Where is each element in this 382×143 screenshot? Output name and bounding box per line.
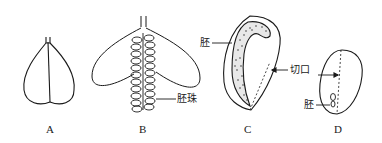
figure-d-drawing <box>316 50 362 114</box>
label-embryo-d: 胚 <box>304 100 314 110</box>
figure-c-drawing <box>212 16 288 110</box>
label-incision-c: 切口 <box>290 65 310 75</box>
figure-a-drawing <box>24 37 74 104</box>
diagram-canvas <box>0 0 382 143</box>
figure-label-c: C <box>244 124 251 135</box>
figure-label-d: D <box>334 124 342 135</box>
label-ovule-b: 胚珠 <box>177 94 197 104</box>
label-embryo-c: 胚 <box>200 38 210 48</box>
figure-label-b: B <box>139 124 146 135</box>
figure-label-a: A <box>46 124 54 135</box>
